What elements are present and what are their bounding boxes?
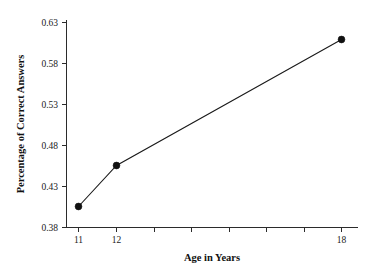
y-tick-label: 0.63	[41, 18, 58, 28]
data-point-marker	[338, 36, 345, 43]
y-axis-title: Percentage of Correct Answers	[15, 55, 26, 194]
x-tick-label: 12	[112, 235, 122, 245]
line-chart: 0.63 0.58 0.53 0.48 0.43 0.38 11 12 18 P…	[0, 0, 376, 272]
data-point-marker	[75, 203, 82, 210]
y-tick-label: 0.58	[41, 59, 58, 69]
y-tick-label: 0.38	[41, 223, 58, 233]
x-axis-title: Age in Years	[184, 252, 240, 263]
y-tick-label: 0.53	[41, 100, 58, 110]
chart-figure: 0.63 0.58 0.53 0.48 0.43 0.38 11 12 18 P…	[0, 0, 376, 272]
data-point-marker	[113, 162, 120, 169]
x-tick-label: 18	[337, 235, 347, 245]
x-tick-label: 11	[74, 235, 83, 245]
y-tick-label: 0.43	[41, 182, 58, 192]
y-tick-label: 0.48	[41, 141, 58, 151]
